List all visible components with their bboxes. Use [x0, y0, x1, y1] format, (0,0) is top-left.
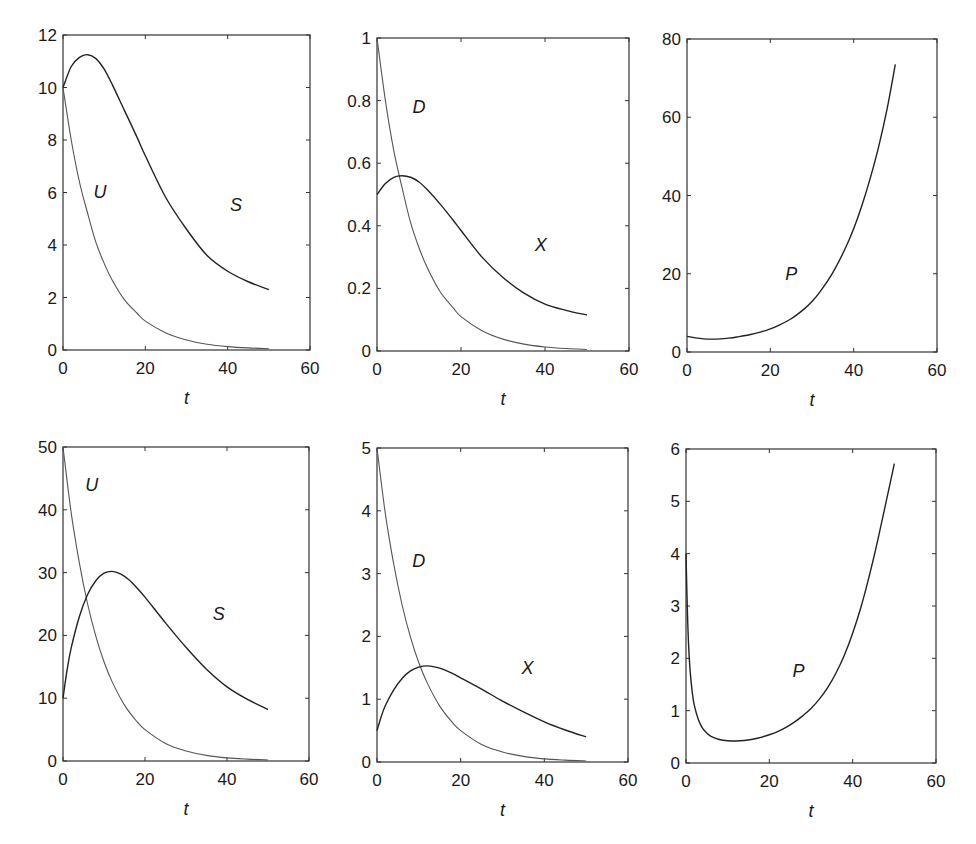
y-tick-label: 10 [38, 79, 57, 98]
series-curve-x [377, 176, 587, 315]
subplot-bottom-left: 020406001020304050tUS [38, 438, 318, 819]
x-tick-label: 0 [58, 359, 67, 378]
y-tick-label: 3 [362, 565, 371, 584]
y-tick-label: 12 [38, 26, 57, 45]
y-tick-label: 0.6 [347, 154, 371, 173]
x-tick-label: 60 [619, 771, 638, 790]
y-tick-label: 2 [362, 627, 371, 646]
x-tick-label: 0 [58, 770, 67, 789]
axes-frame [687, 39, 937, 352]
y-tick-label: 6 [671, 440, 680, 459]
series-label-u: U [85, 475, 99, 495]
y-tick-label: 40 [662, 187, 681, 206]
subplot-bottom-middle: 0204060012345tDX [362, 439, 638, 820]
y-tick-label: 60 [662, 108, 681, 127]
x-tick-label: 20 [451, 771, 470, 790]
series-curve-p [687, 64, 895, 339]
y-tick-label: 6 [48, 184, 57, 203]
y-tick-label: 20 [662, 265, 681, 284]
x-axis-label: t [500, 800, 506, 820]
series-curve-u [63, 88, 269, 349]
y-tick-label: 20 [38, 626, 57, 645]
axes-frame [63, 447, 309, 761]
x-axis-label: t [500, 389, 506, 409]
series-curve-x [377, 666, 586, 737]
series-label-p: P [785, 264, 797, 284]
subplot-top-right: 0204060020406080tP [662, 30, 946, 410]
y-tick-label: 0 [362, 753, 371, 772]
series-label-p: P [792, 661, 804, 681]
series-label-x: X [534, 235, 548, 255]
axes-frame [377, 448, 628, 762]
series-label-s: S [230, 195, 242, 215]
x-tick-label: 60 [927, 772, 946, 791]
x-tick-label: 0 [681, 772, 690, 791]
y-tick-label: 80 [662, 30, 681, 49]
x-tick-label: 60 [928, 361, 947, 380]
x-axis-label: t [183, 799, 189, 819]
y-tick-label: 4 [362, 502, 371, 521]
x-tick-label: 0 [372, 360, 381, 379]
y-tick-label: 4 [48, 236, 57, 255]
y-tick-label: 30 [38, 564, 57, 583]
x-tick-label: 40 [536, 360, 555, 379]
y-tick-label: 40 [38, 501, 57, 520]
y-tick-label: 0.8 [347, 92, 371, 111]
y-tick-label: 0 [672, 343, 681, 362]
axes-frame [377, 38, 629, 351]
y-tick-label: 50 [38, 438, 57, 457]
series-label-x: X [521, 658, 535, 678]
x-tick-label: 20 [136, 359, 155, 378]
y-tick-label: 0 [362, 342, 371, 361]
series-label-u: U [94, 182, 108, 202]
x-tick-label: 20 [136, 770, 155, 789]
y-tick-label: 0.4 [347, 217, 371, 236]
y-tick-label: 4 [671, 545, 680, 564]
x-tick-label: 0 [372, 771, 381, 790]
subplot-top-middle: 020406000.20.40.60.81tDX [347, 29, 638, 409]
y-tick-label: 1 [362, 29, 371, 48]
x-tick-label: 40 [844, 361, 863, 380]
x-axis-label: t [809, 390, 815, 410]
series-label-d: D [413, 97, 426, 117]
y-tick-label: 2 [48, 289, 57, 308]
series-curve-s [63, 571, 268, 709]
x-tick-label: 40 [843, 772, 862, 791]
x-tick-label: 60 [620, 360, 639, 379]
y-tick-label: 0 [671, 754, 680, 773]
y-tick-label: 1 [362, 690, 371, 709]
series-label-s: S [213, 604, 225, 624]
y-tick-label: 0.2 [347, 279, 371, 298]
series-label-d: D [412, 551, 425, 571]
subplot-top-left: 0204060024681012tUS [38, 26, 319, 408]
y-tick-label: 5 [671, 492, 680, 511]
series-curve-d [377, 448, 586, 761]
x-tick-label: 40 [218, 359, 237, 378]
axes-frame [686, 449, 936, 763]
x-tick-label: 40 [535, 771, 554, 790]
y-tick-label: 0 [48, 752, 57, 771]
x-tick-label: 60 [301, 359, 320, 378]
x-tick-label: 20 [760, 772, 779, 791]
x-tick-label: 20 [761, 361, 780, 380]
x-tick-label: 20 [452, 360, 471, 379]
x-axis-label: t [184, 388, 190, 408]
figure-canvas: 0204060024681012tUS 020406000.20.40.60.8… [0, 0, 976, 844]
y-tick-label: 8 [48, 131, 57, 150]
subplot-bottom-right: 02040600123456tP [671, 440, 946, 821]
series-curve-p [686, 464, 894, 741]
y-tick-label: 0 [48, 341, 57, 360]
x-tick-label: 60 [300, 770, 319, 789]
y-tick-label: 2 [671, 649, 680, 668]
series-curve-d [377, 38, 587, 349]
y-tick-label: 3 [671, 597, 680, 616]
series-curve-s [63, 55, 269, 290]
x-tick-label: 40 [218, 770, 237, 789]
y-tick-label: 10 [38, 689, 57, 708]
y-tick-label: 1 [671, 702, 680, 721]
x-axis-label: t [808, 801, 814, 821]
y-tick-label: 5 [362, 439, 371, 458]
x-tick-label: 0 [682, 361, 691, 380]
